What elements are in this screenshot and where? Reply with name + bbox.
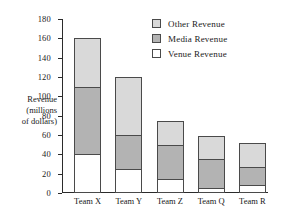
bar-segment-media[interactable]	[74, 87, 101, 155]
bar-segment-venue[interactable]	[239, 185, 266, 193]
bar-segment-media[interactable]	[115, 135, 142, 169]
bar-group[interactable]: Team R	[239, 143, 266, 193]
legend-label: Other Revenue	[168, 19, 225, 29]
legend-label: Venue Revenue	[168, 49, 227, 59]
bar-segment-other[interactable]	[198, 136, 225, 159]
y-axis-tick-label: 180	[38, 15, 51, 24]
y-axis-tick: 120	[58, 77, 62, 78]
bar-group[interactable]: Team X	[74, 38, 101, 193]
bar-segment-venue[interactable]	[74, 154, 101, 193]
legend-swatch-venue	[152, 49, 161, 58]
legend-swatch-media	[152, 34, 161, 43]
legend-item[interactable]: Media Revenue	[152, 31, 227, 46]
x-axis-label: Team X	[74, 197, 101, 206]
y-axis-tick: 40	[58, 154, 62, 155]
x-axis-label: Team Q	[198, 197, 225, 206]
x-axis-label: Team Z	[157, 197, 183, 206]
bar-segment-other[interactable]	[74, 38, 101, 86]
bar-group[interactable]: Team Z	[157, 121, 184, 193]
y-axis-tick: 140	[58, 58, 62, 59]
y-axis-tick: 20	[58, 174, 62, 175]
bar-segment-media[interactable]	[198, 159, 225, 188]
legend-swatch-other	[152, 19, 161, 28]
bar-segment-other[interactable]	[115, 77, 142, 135]
bar-segment-venue[interactable]	[157, 179, 184, 194]
y-axis-tick-label: 160	[38, 34, 51, 43]
legend-item[interactable]: Other Revenue	[152, 16, 227, 31]
y-axis-tick: 100	[58, 96, 62, 97]
y-axis-tick: 180	[58, 19, 62, 20]
y-axis-tick-label: 0	[47, 189, 51, 198]
y-axis-tick-label: 20	[42, 169, 51, 178]
bar-segment-other[interactable]	[239, 143, 266, 167]
legend-item[interactable]: Venue Revenue	[152, 46, 227, 61]
bar-group[interactable]: Team Q	[198, 136, 225, 193]
y-axis-tick: 80	[58, 116, 62, 117]
bar-segment-other[interactable]	[157, 121, 184, 145]
stacked-bar-chart: Revenue (millions of dollars) 0204060801…	[0, 0, 283, 224]
x-axis-label: Team R	[239, 197, 266, 206]
y-axis-tick-label: 120	[38, 73, 51, 82]
y-axis-tick-label: 140	[38, 53, 51, 62]
bar-segment-venue[interactable]	[115, 169, 142, 193]
y-axis-tick: 60	[58, 135, 62, 136]
bar-segment-media[interactable]	[239, 167, 266, 185]
y-axis-tick: 0	[58, 193, 62, 194]
y-axis-tick: 160	[58, 38, 62, 39]
bar-group[interactable]: Team Y	[115, 77, 142, 193]
bar-segment-media[interactable]	[157, 145, 184, 179]
legend-label: Media Revenue	[168, 34, 227, 44]
y-axis-tick-label: 40	[42, 150, 51, 159]
y-axis-tick-label: 80	[42, 111, 51, 120]
y-axis-tick-label: 100	[38, 92, 51, 101]
bar-segment-venue[interactable]	[198, 188, 225, 193]
chart-legend: Other RevenueMedia RevenueVenue Revenue	[152, 16, 227, 61]
y-axis-tick-label: 60	[42, 131, 51, 140]
x-axis-label: Team Y	[115, 197, 142, 206]
